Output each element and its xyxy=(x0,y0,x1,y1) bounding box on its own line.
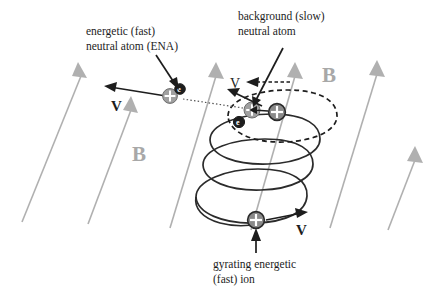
field-line-2 xyxy=(88,96,138,224)
v-label-gyrating-ion: V xyxy=(296,222,307,238)
gyrating-ion-label-line1: gyrating energetic xyxy=(213,258,296,271)
figure-canvas: B B V xyxy=(0,0,431,294)
background-atom-callout-arrow xyxy=(252,48,283,107)
ena-callout-arrow xyxy=(156,55,179,90)
gyrating-ion-proton xyxy=(248,212,265,229)
background-atom-label-line1: background (slow) xyxy=(238,10,325,23)
background-atom-electron: e xyxy=(233,116,244,127)
energetic-ion-at-exchange xyxy=(269,104,286,121)
b-label-left: B xyxy=(132,142,146,166)
v-label-ena: V xyxy=(111,98,122,114)
diagram-svg: B B V xyxy=(0,0,431,294)
ena-particle-group: V e xyxy=(104,82,185,114)
ena-velocity-arrow xyxy=(104,82,166,96)
field-line-1 xyxy=(22,62,87,222)
gyration-helix xyxy=(196,114,320,226)
field-line-5 xyxy=(330,60,385,228)
b-label-right: B xyxy=(322,63,336,87)
ena-trajectory-dotted xyxy=(183,99,243,108)
background-atom-electron-symbol: e xyxy=(236,118,240,127)
field-line-4 xyxy=(251,62,303,230)
background-atom-label-line2: neutral atom xyxy=(238,25,296,37)
field-line-6 xyxy=(388,146,423,230)
gyrating-ion-label-line2: (fast) ion xyxy=(213,273,255,286)
gyrating-ion-callout-arrow xyxy=(251,228,261,253)
ena-label-line2: neutral atom (ENA) xyxy=(86,40,178,53)
ena-label-line1: energetic (fast) xyxy=(86,25,155,38)
